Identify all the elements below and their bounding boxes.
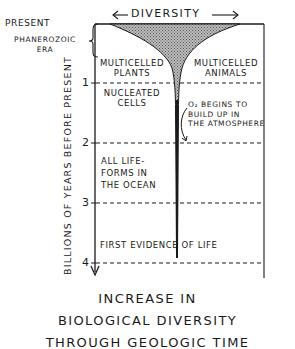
ocean-life-label: ALL LIFE- FORMS IN THE OCEAN: [101, 155, 156, 191]
era-line-1: PHANEROZOIC: [4, 35, 86, 45]
phanerozoic-brace: [89, 24, 98, 57]
diversity-label: DIVERSITY: [131, 9, 200, 19]
caption-line-2: BIOLOGICAL DIVERSITY: [0, 310, 295, 332]
tick-3: 3: [82, 196, 89, 209]
oxygen-arrow: [181, 108, 187, 140]
present-label: PRESENT: [5, 18, 50, 28]
caption-line-3: THROUGH GEOLOGIC TIME: [0, 332, 295, 349]
tick-2: 2: [82, 136, 89, 149]
multicelled-plants-label: MULTICELLED PLANTS: [97, 58, 167, 78]
y-axis-label: BILLIONS OF YEARS BEFORE PRESENT: [62, 56, 73, 275]
caption: INCREASE IN BIOLOGICAL DIVERSITY THROUGH…: [0, 288, 295, 349]
era-line-2: ERA: [4, 45, 86, 55]
first-evidence-label: FIRST EVIDENCE OF LIFE: [100, 240, 218, 250]
nucleated-cells-label: NUCLEATED CELLS: [97, 88, 167, 108]
phanerozoic-era-label: PHANEROZOIC ERA: [4, 35, 86, 55]
tick-1: 1: [82, 76, 89, 89]
tick-4: 4: [82, 256, 89, 269]
caption-line-1: INCREASE IN: [0, 288, 295, 310]
multicelled-animals-label: MULTICELLED ANIMALS: [190, 58, 262, 78]
oxygen-note: O₂ BEGINS TO BUILD UP IN THE ATMOSPHERE: [188, 100, 265, 129]
